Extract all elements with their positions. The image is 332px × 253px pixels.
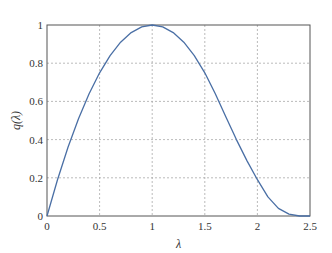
x-tick-label: 1.5 bbox=[198, 220, 212, 232]
plot-frame bbox=[47, 25, 310, 216]
y-tick-label: 1 bbox=[38, 19, 44, 31]
data-line bbox=[47, 25, 310, 216]
y-tick-label: 0.4 bbox=[29, 134, 43, 146]
x-tick-label: 2.5 bbox=[303, 220, 317, 232]
line-chart: 00.511.522.500.20.40.60.81λq(λ) bbox=[0, 0, 332, 253]
x-tick-label: 0 bbox=[44, 220, 50, 232]
x-tick-label: 1 bbox=[149, 220, 155, 232]
y-axis-label: q(λ) bbox=[9, 111, 23, 130]
x-tick-label: 2 bbox=[255, 220, 261, 232]
x-axis-label: λ bbox=[175, 237, 181, 251]
y-tick-label: 0.2 bbox=[29, 172, 43, 184]
y-tick-label: 0.6 bbox=[29, 95, 43, 107]
y-tick-label: 0 bbox=[38, 210, 44, 222]
x-tick-label: 0.5 bbox=[93, 220, 107, 232]
y-tick-label: 0.8 bbox=[29, 57, 43, 69]
